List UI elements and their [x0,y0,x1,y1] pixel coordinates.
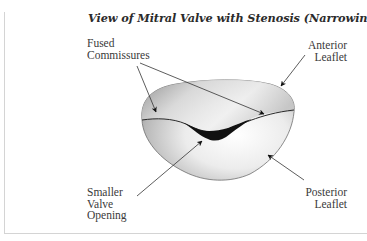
label-fused-commissures: Fused Commissures [87,38,150,61]
label-line: Posterior [298,187,347,199]
label-line: Leaflet [298,199,347,211]
label-line: Smaller [87,187,127,199]
label-posterior-leaflet: Posterior Leaflet [298,187,347,210]
label-anterior-leaflet: Anterior Leaflet [300,40,347,63]
label-line: Commissures [87,50,150,62]
label-line: Anterior [300,40,347,52]
arrow-posterior-leaflet [268,155,304,180]
label-line: Fused [87,38,150,50]
label-smaller-valve-opening: Smaller Valve Opening [87,187,127,222]
label-line: Leaflet [300,52,347,64]
label-line: Opening [87,210,127,222]
